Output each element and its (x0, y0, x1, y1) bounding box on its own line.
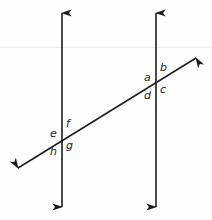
geometry-diagram (0, 0, 212, 220)
angle-label-g: g (66, 140, 73, 151)
transversal-line (18, 58, 196, 168)
angle-label-b: b (160, 62, 167, 73)
angle-label-h: h (50, 146, 57, 157)
angle-label-d: d (144, 90, 151, 101)
angle-label-f: f (66, 118, 70, 129)
angle-label-c: c (160, 84, 166, 95)
geometry-figure: a b c d e f g h (0, 0, 212, 220)
angle-label-a: a (144, 72, 151, 83)
angle-label-e: e (50, 128, 57, 139)
